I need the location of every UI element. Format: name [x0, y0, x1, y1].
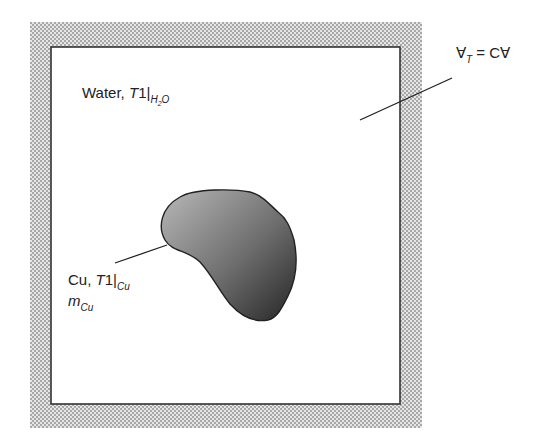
water-label: Water, T1|H2O [82, 85, 169, 100]
water-subscript-o: O [162, 94, 170, 105]
diagram-canvas [0, 0, 560, 448]
copper-mass-label: mCu [68, 293, 93, 308]
volume-equation: = C∀ [472, 44, 510, 61]
water-subscript-2: 2 [158, 100, 162, 107]
mass-symbol: m [68, 292, 81, 309]
state-index: 1 [105, 271, 113, 288]
copper-text: Cu, [68, 271, 96, 288]
temperature-symbol: T [96, 271, 105, 288]
water-subscript-h: H [150, 94, 157, 105]
copper-label: Cu, T1|Cu [68, 272, 130, 287]
temperature-symbol: T [129, 84, 138, 101]
volume-symbol: ∀ [456, 44, 466, 61]
water-text: Water, [82, 84, 129, 101]
copper-subscript: Cu [117, 281, 130, 292]
mass-subscript: Cu [81, 302, 94, 313]
volume-subscript: T [466, 54, 472, 65]
volume-label: ∀T = C∀ [456, 45, 510, 60]
